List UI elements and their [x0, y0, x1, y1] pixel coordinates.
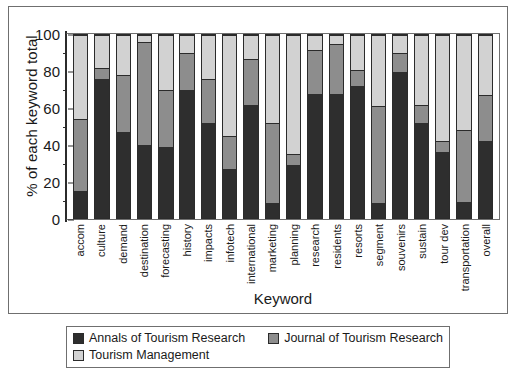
stacked-bar[interactable]: [222, 34, 237, 219]
stacked-bar[interactable]: [158, 34, 173, 219]
bar-segment: [372, 203, 385, 218]
stacked-bar[interactable]: [435, 34, 450, 219]
bar-slot: [411, 34, 432, 219]
bar-slot: [432, 34, 453, 219]
bar-segment: [266, 35, 279, 123]
x-label-slot: culture: [90, 222, 111, 288]
bar-segment: [415, 35, 428, 105]
x-tick-label: planning: [288, 224, 300, 266]
bar-segment: [244, 35, 257, 59]
bar-series-group: [67, 34, 499, 219]
bar-segment: [351, 35, 364, 70]
bar-slot: [70, 34, 91, 219]
stacked-bar[interactable]: [371, 34, 386, 219]
bar-slot: [389, 34, 410, 219]
bar-segment: [74, 119, 87, 190]
x-label-slot: destination: [133, 222, 154, 288]
stacked-bar[interactable]: [329, 34, 344, 219]
stacked-bar[interactable]: [392, 34, 407, 219]
plot-area: 020406080100: [66, 33, 500, 220]
x-label-slot: souvenirs: [390, 222, 411, 288]
legend-label-journal: Journal of Tourism Research: [284, 331, 443, 345]
legend-item-journal: Journal of Tourism Research: [268, 331, 443, 345]
bar-segment: [479, 95, 492, 141]
stacked-bar[interactable]: [414, 34, 429, 219]
stacked-bar[interactable]: [350, 34, 365, 219]
x-tick-label: marketing: [266, 224, 278, 272]
legend-item-annals: Annals of Tourism Research: [73, 331, 268, 345]
stacked-bar[interactable]: [307, 34, 322, 219]
x-label-slot: overall: [476, 222, 497, 288]
stacked-bar[interactable]: [137, 34, 152, 219]
bar-segment: [95, 35, 108, 68]
bar-segment: [393, 35, 406, 53]
bar-segment: [308, 94, 321, 218]
x-label-slot: accom: [69, 222, 90, 288]
bar-segment: [287, 35, 300, 154]
x-label-slot: tour dev: [433, 222, 454, 288]
x-label-slot: forecasting: [155, 222, 176, 288]
bar-segment: [287, 165, 300, 218]
bar-segment: [372, 35, 385, 106]
bar-segment: [479, 35, 492, 95]
bar-segment: [436, 35, 449, 141]
x-axis-tick-labels: accomculturedemanddestinationforecasting…: [66, 222, 500, 288]
bar-segment: [117, 132, 130, 218]
x-tick-label: destination: [138, 224, 150, 277]
x-label-slot: research: [304, 222, 325, 288]
x-tick-label: souvenirs: [395, 224, 407, 271]
x-tick-label: accom: [74, 224, 86, 256]
stacked-bar[interactable]: [73, 34, 88, 219]
bar-segment: [372, 106, 385, 203]
legend-label-annals: Annals of Tourism Research: [89, 331, 245, 345]
bar-segment: [95, 68, 108, 79]
stacked-bar[interactable]: [265, 34, 280, 219]
x-tick-label: overall: [480, 224, 492, 256]
bar-segment: [436, 141, 449, 152]
stacked-bar[interactable]: [456, 34, 471, 219]
x-axis-title: Keyword: [66, 290, 500, 307]
bar-segment: [287, 154, 300, 165]
chart-legend: Annals of Tourism Research Journal of To…: [66, 326, 450, 368]
y-tick-label-60: 60: [22, 101, 67, 116]
bar-segment: [180, 35, 193, 53]
bar-segment: [351, 86, 364, 218]
stacked-bar[interactable]: [286, 34, 301, 219]
bar-slot: [283, 34, 304, 219]
stacked-bar[interactable]: [201, 34, 216, 219]
x-tick-label: history: [181, 224, 193, 256]
stacked-bar[interactable]: [478, 34, 493, 219]
bar-segment: [159, 147, 172, 218]
bar-segment: [393, 72, 406, 218]
x-tick-label: sustain: [416, 224, 428, 259]
bar-segment: [457, 130, 470, 201]
x-tick-label: tour dev: [438, 224, 450, 264]
bar-slot: [155, 34, 176, 219]
stacked-bar[interactable]: [116, 34, 131, 219]
stacked-bar[interactable]: [179, 34, 194, 219]
y-tick-label-100: 100: [22, 27, 67, 42]
bar-segment: [159, 35, 172, 90]
bar-segment: [95, 79, 108, 218]
legend-swatch-management: [73, 350, 84, 361]
bar-segment: [117, 35, 130, 75]
bar-segment: [244, 105, 257, 218]
stacked-bar[interactable]: [243, 34, 258, 219]
bar-slot: [262, 34, 283, 219]
x-label-slot: residents: [326, 222, 347, 288]
x-tick-label: culture: [95, 224, 107, 257]
bar-segment: [457, 202, 470, 218]
legend-row-1: Annals of Tourism Research Journal of To…: [73, 331, 443, 348]
bar-slot: [368, 34, 389, 219]
bar-segment: [202, 35, 215, 79]
x-tick-label: impacts: [202, 224, 214, 262]
x-label-slot: impacts: [197, 222, 218, 288]
x-label-slot: marketing: [262, 222, 283, 288]
legend-swatch-annals: [73, 333, 84, 344]
bar-segment: [308, 50, 321, 94]
bar-segment: [138, 42, 151, 144]
stacked-bar[interactable]: [94, 34, 109, 219]
x-tick-label: segment: [373, 224, 385, 266]
y-tick-label-20: 20: [22, 175, 67, 190]
x-label-slot: resorts: [347, 222, 368, 288]
